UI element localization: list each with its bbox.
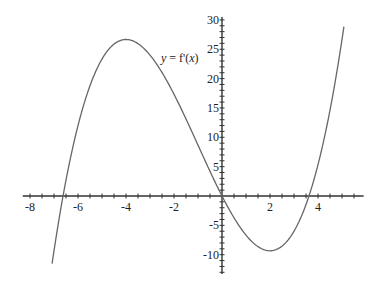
x-tick-label: -6 (73, 200, 83, 214)
derivative-graph: -8-6-4-224-10-551015202530 y = f'(x) (0, 0, 383, 288)
curve-label: y = f'(x) (160, 51, 199, 65)
y-tick-label: 30 (207, 13, 219, 27)
y-tick-label: 10 (207, 130, 219, 144)
y-tick-label: 20 (207, 72, 219, 86)
y-tick-label: -10 (203, 248, 219, 262)
x-tick-label: -4 (121, 200, 131, 214)
x-tick-label: 2 (267, 200, 273, 214)
x-tick-label: 4 (315, 200, 321, 214)
x-tick-label: -8 (25, 200, 35, 214)
x-tick-label: -2 (169, 200, 179, 214)
y-tick-label: 25 (207, 42, 219, 56)
y-tick-label: 5 (213, 160, 219, 174)
y-tick-label: -5 (209, 218, 219, 232)
y-tick-label: 15 (207, 101, 219, 115)
